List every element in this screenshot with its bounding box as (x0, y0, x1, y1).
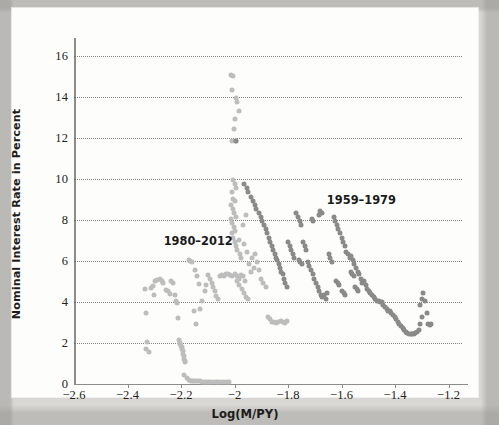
data-point (200, 299, 205, 304)
gridline-y-2 (74, 343, 462, 344)
y-tick-label-16: 16 (40, 49, 68, 64)
data-point (311, 219, 316, 224)
data-point (418, 303, 423, 308)
data-point (419, 315, 424, 320)
data-point (194, 321, 199, 326)
data-point (243, 213, 248, 218)
x-tick-mark-7 (449, 384, 450, 388)
series-label-1959-1979: 1959–1979 (327, 193, 396, 207)
data-point (233, 139, 238, 144)
x-tick-label-3: −2 (215, 388, 255, 403)
data-point (198, 307, 203, 312)
data-point (215, 297, 220, 302)
y-tick-label-12: 12 (40, 131, 68, 146)
data-point (175, 301, 180, 306)
x-tick-mark-2 (181, 384, 182, 388)
gridline-y-10 (74, 179, 462, 180)
data-point (235, 100, 240, 105)
x-axis-title: Log(M/PY) (12, 407, 478, 421)
data-point (429, 321, 434, 326)
data-point (263, 284, 268, 289)
data-point (257, 268, 262, 273)
x-tick-label-4: −1.8 (268, 388, 308, 403)
y-tick-label-14: 14 (40, 90, 68, 105)
data-point (236, 108, 241, 113)
x-tick-mark-5 (342, 384, 343, 388)
data-point (421, 290, 426, 295)
data-point (173, 292, 178, 297)
data-point (202, 288, 207, 293)
data-point (416, 327, 421, 332)
gridline-y-4 (74, 302, 462, 303)
data-point (245, 249, 250, 254)
data-point (230, 88, 235, 93)
y-axis-title: Nominal Interest Rate in Percent (10, 44, 26, 384)
data-point (255, 260, 260, 265)
chart-card: Nominal Interest Rate in Percent 0246810… (12, 8, 478, 397)
data-point (232, 127, 237, 132)
data-point (231, 73, 236, 78)
data-point (343, 292, 348, 297)
data-point (227, 379, 232, 384)
data-point (356, 288, 361, 293)
data-point (175, 316, 180, 321)
data-point (171, 280, 176, 285)
gridline-y-14 (74, 97, 462, 98)
series-label-1980-2012: 1980–2012 (164, 234, 233, 248)
data-point (233, 116, 238, 121)
data-point (240, 223, 245, 228)
data-point (299, 262, 304, 267)
data-point (183, 360, 188, 365)
data-point (351, 274, 356, 279)
x-tick-label-0: −2.6 (54, 388, 94, 403)
data-point (284, 318, 289, 323)
data-point (424, 311, 429, 316)
data-point (323, 297, 328, 302)
x-tick-mark-4 (288, 384, 289, 388)
data-point (241, 241, 246, 246)
data-point (304, 247, 309, 252)
data-point (239, 256, 244, 261)
gridline-y-16 (74, 56, 462, 57)
data-point (197, 281, 202, 286)
data-point (152, 292, 157, 297)
gridline-y-12 (74, 138, 462, 139)
data-point (229, 190, 234, 195)
data-point (195, 274, 200, 279)
y-tick-label-10: 10 (40, 172, 68, 187)
data-point (161, 280, 166, 285)
x-axis-line (74, 384, 468, 385)
data-point (167, 291, 172, 296)
data-point (192, 268, 197, 273)
data-point (325, 290, 330, 295)
plot-area (74, 44, 462, 384)
data-point (329, 260, 334, 265)
data-point (245, 297, 250, 302)
data-point (337, 282, 342, 287)
y-tick-label-8: 8 (40, 213, 68, 228)
gridline-y-8 (74, 220, 462, 221)
x-tick-label-2: −2.2 (161, 388, 201, 403)
figure-root: Nominal Interest Rate in Percent 0246810… (0, 0, 499, 425)
data-point (299, 223, 304, 228)
data-point (191, 309, 196, 314)
data-point (147, 350, 152, 355)
data-point (190, 260, 195, 265)
data-point (418, 321, 423, 326)
y-tick-label-4: 4 (40, 295, 68, 310)
data-point (243, 278, 248, 283)
data-point (236, 237, 241, 242)
data-point (144, 311, 149, 316)
x-tick-mark-3 (235, 384, 236, 388)
x-tick-mark-1 (128, 384, 129, 388)
data-point (316, 213, 321, 218)
x-tick-label-6: −1.4 (375, 388, 415, 403)
x-tick-label-7: −1.2 (429, 388, 469, 403)
data-point (251, 266, 256, 271)
x-tick-label-5: −1.6 (322, 388, 362, 403)
data-point (284, 284, 289, 289)
data-point (142, 286, 147, 291)
data-point (150, 283, 155, 288)
data-point (234, 186, 239, 191)
data-point (233, 215, 238, 220)
